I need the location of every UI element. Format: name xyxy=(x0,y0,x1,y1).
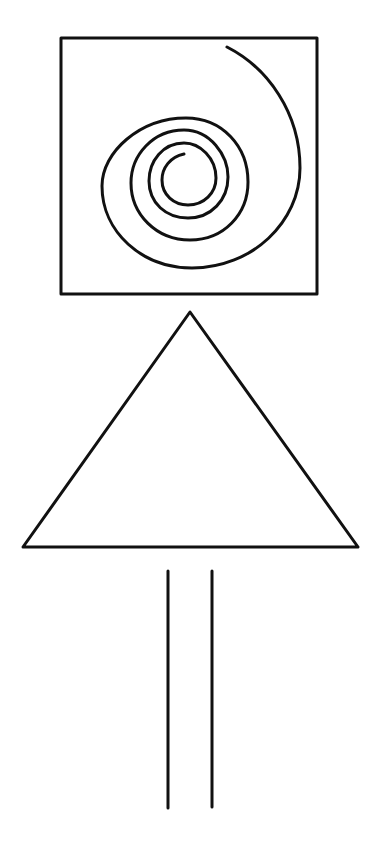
triangle-shape xyxy=(23,312,358,547)
triangle xyxy=(23,312,358,547)
square-with-spiral xyxy=(61,38,317,294)
spiral-icon xyxy=(102,47,300,268)
figure-canvas xyxy=(0,0,380,864)
parallel-lines xyxy=(168,571,212,808)
square-frame xyxy=(61,38,317,294)
